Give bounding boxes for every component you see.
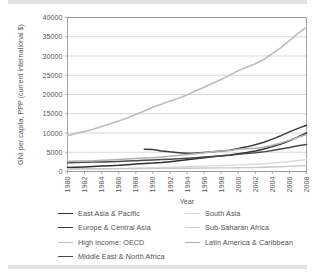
x-tick-label: 1980: [63, 177, 72, 193]
y-axis-title-text: GNI per capita, PPP (current internation…: [16, 24, 25, 165]
y-tick-label: 30000: [43, 52, 63, 61]
legend-item-label: Latin America & Caribbean: [205, 238, 293, 247]
x-axis-title-text: Year: [180, 197, 195, 206]
x-tick-label: 1986: [114, 177, 123, 193]
legend-item[interactable]: Middle East & North Africa: [58, 250, 165, 265]
legend-item-label: Middle East & North Africa: [78, 252, 165, 261]
x-tick-label: 2002: [251, 177, 260, 193]
legend-line-swatch: [185, 227, 200, 228]
y-tick-label: 40000: [43, 13, 63, 22]
legend-item[interactable]: South Asia: [185, 206, 293, 221]
x-tick-label: 1994: [183, 177, 192, 193]
y-tick-label: 25000: [43, 71, 63, 80]
line-chart: 0500010000150002000025000300003500040000…: [0, 4, 315, 209]
legend-line-swatch: [58, 227, 73, 228]
legend-line-swatch: [185, 242, 200, 243]
legend-item[interactable]: Europe & Central Asia: [58, 221, 165, 236]
y-tick-label: 0: [59, 167, 63, 176]
legend-line-swatch: [58, 256, 73, 257]
x-tick-label: 2004: [268, 177, 277, 193]
x-axis-tick-labels: 1980198219841986198819901992199419961998…: [63, 177, 311, 193]
y-tick-label: 10000: [43, 129, 63, 138]
legend-item-label: High income: OECD: [78, 238, 144, 247]
x-tick-label: 1982: [80, 177, 89, 193]
x-tick-label: 1984: [97, 177, 106, 193]
legend-item-label: Europe & Central Asia: [78, 223, 151, 232]
chart-legend: East Asia & PacificEurope & Central Asia…: [0, 206, 315, 264]
legend-column-left: East Asia & PacificEurope & Central Asia…: [58, 206, 165, 264]
x-tick-label: 1996: [200, 177, 209, 193]
y-tick-label: 35000: [43, 32, 63, 41]
legend-column-right: South AsiaSub-Saharan AfricaLatin Americ…: [185, 206, 293, 250]
x-tick-label: 2000: [234, 177, 243, 193]
legend-item-label: South Asia: [205, 209, 240, 218]
x-tick-label: 1998: [217, 177, 226, 193]
x-tick-label: 1990: [148, 177, 157, 193]
x-tick-label: 2008: [302, 177, 311, 193]
legend-item-label: East Asia & Pacific: [78, 209, 140, 218]
y-axis-title: GNI per capita, PPP (current internation…: [16, 24, 25, 165]
y-tick-label: 5000: [47, 148, 63, 157]
legend-item[interactable]: High income: OECD: [58, 235, 165, 250]
legend-item-label: Sub-Saharan Africa: [205, 223, 269, 232]
y-tick-label: 20000: [43, 90, 63, 99]
bottom-divider-rule: [8, 265, 307, 269]
x-tick-label: 2006: [285, 177, 294, 193]
legend-item[interactable]: Latin America & Caribbean: [185, 235, 293, 250]
legend-item[interactable]: Sub-Saharan Africa: [185, 221, 293, 236]
y-axis-tick-labels: 0500010000150002000025000300003500040000: [43, 13, 63, 176]
x-tick-label: 1988: [131, 177, 140, 193]
x-axis-title: Year: [180, 197, 195, 206]
legend-line-swatch: [58, 213, 73, 214]
y-tick-label: 15000: [43, 109, 63, 118]
legend-item[interactable]: East Asia & Pacific: [58, 206, 165, 221]
legend-line-swatch: [185, 213, 200, 214]
chart-figure: 0500010000150002000025000300003500040000…: [0, 0, 315, 274]
x-tick-label: 1992: [166, 177, 175, 193]
legend-line-swatch: [58, 242, 73, 243]
